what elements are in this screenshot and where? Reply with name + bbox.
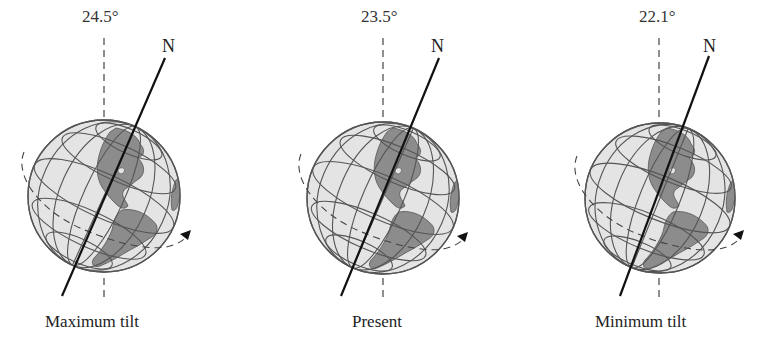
globe-icon bbox=[285, 102, 482, 295]
tilt-angle-label: 24.5° bbox=[82, 7, 119, 27]
globe-diagram-maximum bbox=[0, 0, 253, 349]
globe-diagram-present bbox=[279, 0, 532, 349]
rotation-arrow-icon bbox=[457, 232, 468, 242]
panel-maximum-tilt: 24.5° N Maximum tilt bbox=[0, 0, 253, 349]
panel-minimum-tilt: 22.1° N Minimum tilt bbox=[555, 0, 758, 349]
north-pole-label: N bbox=[162, 36, 175, 57]
north-pole-label: N bbox=[431, 36, 444, 57]
globe-diagram-minimum bbox=[555, 0, 758, 349]
rotation-arrow-icon bbox=[180, 230, 191, 240]
tilt-angle-label: 23.5° bbox=[361, 7, 398, 27]
globe-icon bbox=[5, 99, 203, 293]
north-pole-label: N bbox=[703, 36, 716, 57]
globe-icon bbox=[563, 103, 756, 293]
panel-caption: Maximum tilt bbox=[45, 312, 139, 332]
rotation-arrow-icon bbox=[733, 230, 744, 240]
panel-caption: Minimum tilt bbox=[595, 312, 686, 332]
panel-present: 23.5° N Present bbox=[279, 0, 532, 349]
panel-caption: Present bbox=[352, 312, 402, 332]
tilt-angle-label: 22.1° bbox=[639, 7, 676, 27]
